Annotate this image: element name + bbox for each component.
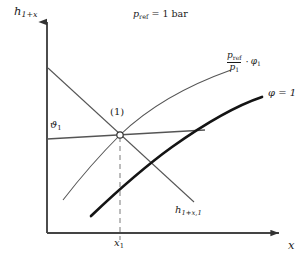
h-sub: 1+x,1 bbox=[181, 209, 201, 217]
state-point-label: (1) bbox=[110, 107, 124, 117]
multiplication-dot: · bbox=[244, 57, 251, 67]
x-axis-label: x bbox=[288, 240, 295, 252]
y-axis-label: h1+x bbox=[14, 6, 37, 19]
curve-isotherm-theta1 bbox=[47, 130, 205, 139]
pressure-note-value: = 1 bar bbox=[148, 8, 187, 19]
fraction-denominator: p1 bbox=[227, 62, 241, 74]
pressure-note-sub: ref bbox=[139, 13, 148, 21]
chart-plot-area bbox=[0, 0, 306, 263]
phi-sub-1: φ1 bbox=[251, 57, 261, 67]
curve-scaled-humidity bbox=[63, 70, 231, 200]
figure-canvas: h1+x pref = 1 bar pref p1 · φ1 φ = 1 ϑ1 … bbox=[0, 0, 306, 263]
x-axis-tick-label: x1 bbox=[114, 238, 124, 250]
curve-label-saturation: φ = 1 bbox=[268, 88, 296, 98]
fraction-numerator: pref bbox=[225, 51, 244, 62]
curve-label-isotherm: ϑ1 bbox=[50, 120, 61, 132]
x-tick-sub: 1 bbox=[120, 242, 124, 250]
pressure-note: pref = 1 bar bbox=[133, 9, 188, 20]
curve-label-enthalpy: h1+x,1 bbox=[175, 205, 202, 217]
state-point-marker bbox=[117, 132, 123, 138]
curve-label-scaled-humidity: pref p1 · φ1 bbox=[225, 51, 261, 73]
theta-sub: 1 bbox=[57, 124, 61, 132]
y-axis-label-sub: 1+x bbox=[21, 10, 37, 19]
pref-over-p1-fraction: pref p1 bbox=[225, 51, 244, 73]
